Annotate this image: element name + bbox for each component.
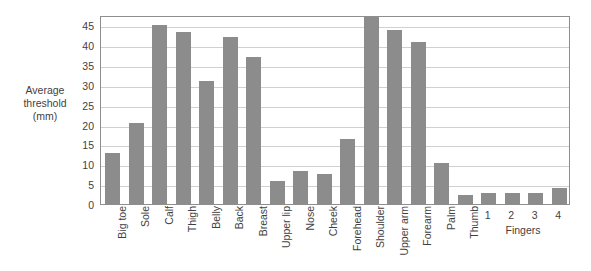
y-axis-tick-labels: 051015202530354045 [60,16,94,205]
bar [387,30,402,204]
x-tick-label: Thigh [186,206,198,232]
bar [364,17,379,204]
x-axis-tick-labels: Big toeSoleCalfThighBellyBackBreastUpper… [100,206,570,268]
bar [552,188,567,204]
x-tick-label: Nose [304,206,316,231]
x-tick-label: Belly [210,206,222,229]
group-label-fingers: Fingers [483,224,563,236]
y-tick-label: 30 [82,80,94,92]
bar [458,195,473,204]
bar [481,193,496,204]
bar [129,123,144,204]
bar [293,171,308,204]
bar [199,81,214,204]
x-tick-label: Calf [163,206,175,225]
bar [105,153,120,204]
bars-layer [101,17,569,204]
bar [223,37,238,204]
bar [340,139,355,205]
x-tick-label: Cheek [327,206,339,236]
bar-chart-figure: Average threshold (mm) 05101520253035404… [0,0,591,271]
bar [528,193,543,204]
x-tick-label: Forearm [421,206,433,246]
bar [434,163,449,204]
x-tick-label: Breast [257,206,269,236]
y-tick-label: 45 [82,20,94,32]
x-tick-label: Upper lip [280,206,292,248]
bar [505,193,520,204]
bar [176,32,191,204]
bar [411,42,426,204]
bar [246,57,261,204]
y-tick-label: 10 [82,159,94,171]
y-tick-label: 0 [88,199,94,211]
bar [270,181,285,204]
y-tick-label: 20 [82,120,94,132]
y-tick-label: 25 [82,100,94,112]
y-tick-label: 35 [82,60,94,72]
x-tick-label: Back [233,206,245,229]
x-tick-label: Palm [445,206,457,230]
x-tick-label: 4 [538,209,578,221]
y-tick-label: 15 [82,139,94,151]
x-tick-label: Big toe [116,206,128,239]
x-tick-label: Forehead [351,206,363,251]
y-tick-label: 5 [88,179,94,191]
plot-area [100,16,570,205]
bar [152,25,167,204]
x-tick-label: Upper arm [398,206,410,256]
bar [317,174,332,204]
y-tick-label: 40 [82,40,94,52]
x-tick-label: Shoulder [374,206,386,248]
x-tick-label: Sole [139,206,151,227]
